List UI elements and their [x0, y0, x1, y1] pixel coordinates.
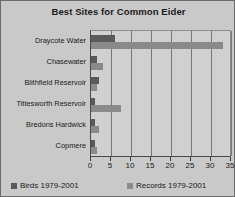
legend-entry: Records 1979-2001	[127, 181, 206, 190]
x-axis-tick-label: 20	[160, 161, 180, 170]
legend-entry: Birds 1979-2001	[11, 181, 79, 190]
bar-birds	[91, 140, 95, 147]
bar-birds	[91, 98, 95, 105]
bar-birds	[91, 35, 115, 42]
x-axis-tick-label: 15	[140, 161, 160, 170]
gridline	[111, 31, 112, 156]
category-label: Draycote Water	[1, 37, 86, 45]
gridline	[131, 31, 132, 156]
x-axis-tick-label: 30	[200, 161, 220, 170]
bar-birds	[91, 119, 95, 126]
bar-records	[91, 126, 99, 133]
gridline	[231, 31, 232, 156]
bar-group	[91, 35, 231, 49]
chart-title: Best Sites for Common Eider	[1, 6, 235, 17]
category-label: Blithfield Reservoir	[1, 79, 86, 87]
x-axis-tick-labels: 05101520253035	[90, 161, 231, 173]
bar-group	[91, 77, 231, 91]
x-axis-tick-label: 5	[100, 161, 120, 170]
legend-swatch-icon	[127, 183, 133, 189]
x-axis-tick-label: 0	[80, 161, 100, 170]
category-label: Bredons Hardwick	[1, 121, 86, 129]
plot-wrapper: Draycote WaterChasewaterBlithfield Reser…	[1, 27, 235, 167]
category-label: Chasewater	[1, 58, 86, 66]
plot-area	[90, 30, 231, 157]
category-label: Copmere	[1, 142, 86, 150]
category-label: Tittesworth Reservoir	[1, 100, 86, 108]
x-axis-tick-label: 10	[120, 161, 140, 170]
bar-birds	[91, 77, 99, 84]
legend-label: Birds 1979-2001	[20, 181, 79, 190]
bar-group	[91, 119, 231, 133]
bar-records	[91, 63, 103, 70]
gridline	[211, 31, 212, 156]
bar-group	[91, 98, 231, 112]
category-axis-labels: Draycote WaterChasewaterBlithfield Reser…	[1, 27, 89, 157]
bar-group	[91, 140, 231, 154]
gridline	[171, 31, 172, 156]
legend-swatch-icon	[11, 183, 17, 189]
bar-birds	[91, 56, 97, 63]
legend-label: Records 1979-2001	[136, 181, 206, 190]
gridline	[191, 31, 192, 156]
chart-container: Best Sites for Common Eider Draycote Wat…	[0, 0, 235, 197]
x-axis-tick-label: 35	[220, 161, 235, 170]
bar-records	[91, 84, 97, 91]
bar-group	[91, 56, 231, 70]
chart-legend: Birds 1979-2001Records 1979-2001	[1, 181, 235, 195]
bar-records	[91, 147, 97, 154]
bar-records	[91, 42, 223, 49]
x-axis-tick-label: 25	[180, 161, 200, 170]
bar-records	[91, 105, 121, 112]
gridline	[151, 31, 152, 156]
